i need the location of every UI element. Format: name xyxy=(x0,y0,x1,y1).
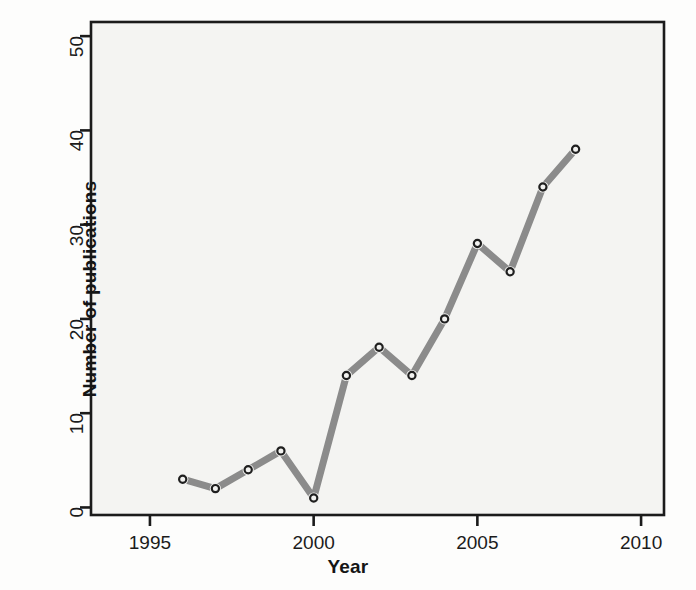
x-tick-label: 2005 xyxy=(437,532,517,554)
data-point xyxy=(474,240,481,247)
data-point xyxy=(408,372,415,379)
data-point xyxy=(179,476,186,483)
x-axis-title: Year xyxy=(0,556,696,578)
data-point xyxy=(277,447,284,454)
y-tick-label: 30 xyxy=(66,225,88,271)
data-point xyxy=(245,466,252,473)
data-point xyxy=(572,146,579,153)
line-chart-plot xyxy=(0,0,696,590)
data-point xyxy=(441,315,448,322)
data-point xyxy=(343,372,350,379)
x-tick-label: 2010 xyxy=(601,532,681,554)
data-point xyxy=(507,268,514,275)
data-point xyxy=(212,485,219,492)
data-point xyxy=(310,494,317,501)
data-point xyxy=(376,344,383,351)
x-tick-label: 1995 xyxy=(110,532,190,554)
y-tick-label: 0 xyxy=(66,507,88,553)
chart-figure: Number of publications Year 199520002005… xyxy=(0,0,696,590)
y-tick-label: 20 xyxy=(66,319,88,365)
plot-background xyxy=(91,22,664,515)
y-tick-label: 10 xyxy=(66,413,88,459)
x-tick-label: 2000 xyxy=(274,532,354,554)
y-tick-label: 40 xyxy=(66,130,88,176)
y-tick-label: 50 xyxy=(66,36,88,82)
data-point xyxy=(539,183,546,190)
